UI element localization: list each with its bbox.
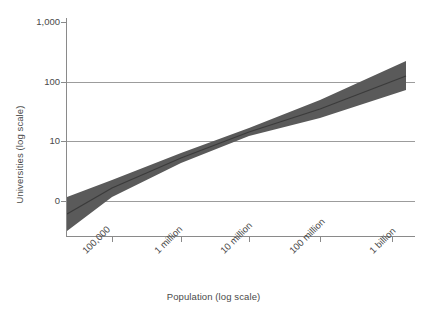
chart-canvas [0,0,427,314]
y-axis-title: Universities (log scale) [14,90,25,220]
x-axis-title: Population (log scale) [0,291,427,302]
y-tick-label-100: 100 [16,76,60,87]
y-tick-label-1000: 1,000 [16,16,60,27]
confidence-band [67,61,406,231]
chart-container: 1,000 100 10 0 100,000 1 million 10 mill… [0,0,427,314]
